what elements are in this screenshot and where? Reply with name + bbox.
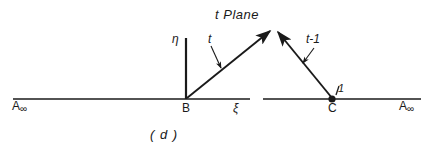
leader-line-t-minus-1 [303,48,314,63]
axis-label-xi: ξ [233,102,238,114]
vector-t-line [187,31,270,98]
figure-canvas [0,0,434,151]
left-infinity-label: A∞ [12,100,27,114]
infinity-icon: ∞ [20,103,27,114]
leader-line-t [211,46,221,68]
right-infinity-label: A∞ [399,100,414,114]
point-label-c: C [328,102,337,114]
left-infinity-base: A [12,99,20,113]
right-infinity-base: A [399,99,407,113]
point-label-b: B [182,102,190,114]
vector-t-minus-1-line [278,32,332,98]
vector-label-t: t [208,33,211,45]
vector-label-t-minus-1: t-1 [306,33,320,45]
figure-caption: ( d ) [150,128,178,141]
t-plane-figure: t Plane η ξ B C 1 t t-1 A∞ A∞ ( d ) [0,0,434,151]
plane-title: t Plane [215,8,259,21]
unit-value-label: 1 [338,83,344,94]
infinity-icon: ∞ [407,103,414,114]
axis-label-eta: η [172,33,179,45]
